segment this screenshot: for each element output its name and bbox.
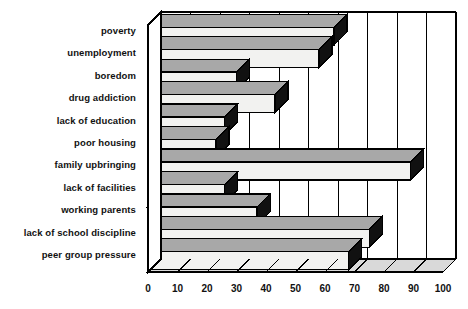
x-tick-label-60: 60 [319,283,330,294]
x-tick-label-50: 50 [290,283,301,294]
bar-chart: povertyunemploymentboredomdrug addiction… [0,0,468,309]
x-axis-tick-labels: 0102030405060708090100 [0,283,468,303]
bar [148,239,362,270]
x-tick-label-70: 70 [349,283,360,294]
x-tick-label-30: 30 [231,283,242,294]
x-tick-label-100: 100 [435,283,452,294]
x-tick-label-40: 40 [260,283,271,294]
x-tick-label-80: 80 [378,283,389,294]
plot-area [0,0,468,309]
x-tick-label-90: 90 [408,283,419,294]
x-tick-label-0: 0 [145,283,151,294]
bars-group [148,14,424,270]
x-tick-label-10: 10 [172,283,183,294]
x-tick-label-20: 20 [201,283,212,294]
chart-svg [0,0,468,309]
